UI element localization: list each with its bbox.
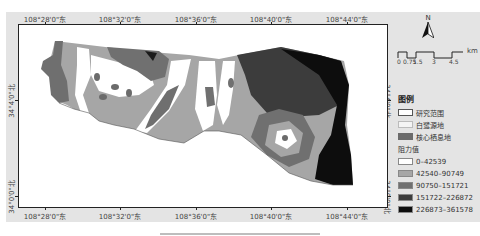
resistance-swatch [398,206,413,213]
resistance-label: 90750–151721 [416,182,469,190]
resistance-swatch [398,170,413,177]
resistance-label: 226873–361578 [416,206,473,214]
resistance-swatch [398,194,413,201]
legend-item: 研究范围 [398,107,478,118]
resistance-class-item: 0–42539 [398,156,478,167]
resistance-class-item: 226873–361578 [398,204,478,215]
longitude-label: 108°44'0"东 [326,211,368,221]
scale-tick: 4.5 [449,58,459,65]
legend: 图例 研究范围白鹭源地核心栖息地 阻力值 0–4253942540–907499… [398,93,478,216]
resistance-swatch [398,158,413,165]
longitude-label: 108°28'0"东 [24,211,66,221]
legend-item: 白鹭源地 [398,119,478,130]
scale-bar: km 0 0.75 1.5 3 4.5 [397,45,467,64]
legend-title: 图例 [398,93,478,104]
scale-tick: 0 [397,58,401,65]
north-label: N [418,14,438,22]
latitude-label: 34°4'0"北 [6,84,16,117]
scale-tick: 3 [432,58,436,65]
resistance-title: 阻力值 [398,144,478,154]
caption-cutoff [160,233,320,235]
figure-caption [160,229,320,236]
legend-label: 核心栖息地 [416,132,451,142]
legend-label: 研究范围 [416,108,444,118]
resistance-label: 151722–226872 [416,194,473,202]
scale-tick: 1.5 [413,58,423,65]
resistance-raster [19,25,388,208]
resistance-class-item: 42540–90749 [398,168,478,179]
latitude-tick [388,100,391,101]
resistance-class-item: 151722–226872 [398,192,478,203]
north-arrow: N [418,14,438,42]
legend-swatch [398,109,413,116]
legend-items: 研究范围白鹭源地核心栖息地 [398,107,478,142]
latitude-label: 34°0'0"北 [6,180,16,213]
resistance-class-item: 90750–151721 [398,180,478,191]
north-arrow-icon [422,22,434,38]
longitude-label: 108°40'0"东 [250,211,292,221]
longitude-label: 108°32'0"东 [99,211,141,221]
legend-item: 核心栖息地 [398,131,478,142]
resistance-map [18,24,388,208]
resistance-swatch [398,182,413,189]
resistance-classes: 0–4253942540–9074990750–151721151722–226… [398,156,478,215]
longitude-label: 108°36'0"东 [175,211,217,221]
legend-label: 白鹭源地 [416,120,444,130]
legend-swatch [398,121,413,128]
resistance-label: 42540–90749 [416,170,464,178]
legend-swatch [398,133,413,140]
scale-unit: km [467,47,478,55]
resistance-label: 0–42539 [416,158,446,166]
latitude-tick [388,196,391,197]
